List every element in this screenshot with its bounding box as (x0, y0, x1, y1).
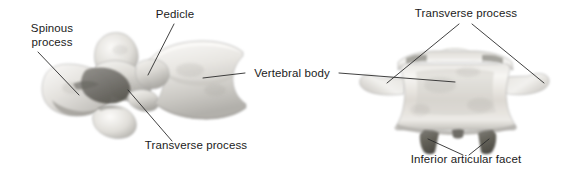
inferior-articular-facet-left (420, 130, 439, 154)
anatomy-figure: Spinous process Pedicle Transverse proce… (0, 0, 582, 176)
spinous-process-stub (440, 48, 470, 51)
inferior-articular-process-left (93, 105, 137, 139)
label-vertebral-body: Vertebral body (254, 67, 330, 79)
left-vertebra-illustration (42, 33, 246, 139)
label-inferior-articular-facet: Inferior articular facet (411, 153, 522, 165)
transverse-process-right-view-right (502, 73, 549, 94)
vertebra-diagram-svg: Spinous process Pedicle Transverse proce… (0, 0, 582, 176)
central-spinous-nub (452, 129, 464, 138)
label-spinous-process-line2: process (32, 36, 73, 48)
label-transverse-process-right: Transverse process (415, 7, 518, 19)
pedicle-bone (136, 59, 170, 89)
label-transverse-process-left: Transverse process (145, 139, 248, 151)
label-spinous-process-line1: Spinous (31, 22, 73, 34)
label-pedicle: Pedicle (156, 8, 194, 20)
inferior-articular-facet-right (478, 130, 496, 154)
